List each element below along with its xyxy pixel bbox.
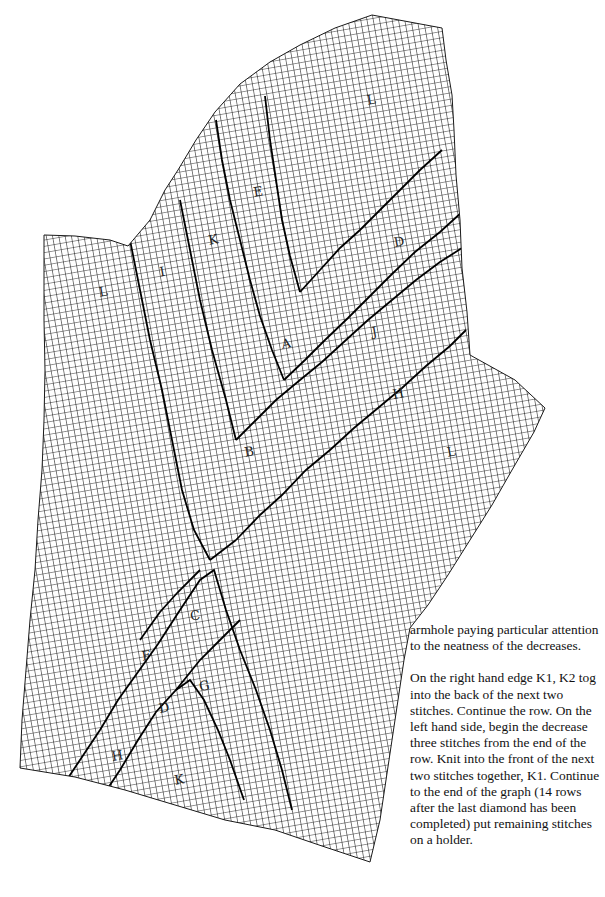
- instructions-text: armhole paying particular attention to t…: [410, 622, 605, 865]
- instructions-paragraph-2: On the right hand edge K1, K2 tog into t…: [410, 670, 605, 848]
- instructions-paragraph-1: armhole paying particular attention to t…: [410, 622, 605, 654]
